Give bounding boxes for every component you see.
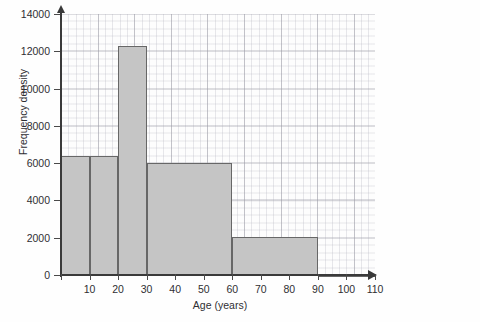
y-axis-tick [54, 126, 60, 127]
y-axis-arrow-icon [57, 5, 65, 13]
x-axis-tick [289, 274, 290, 280]
histogram-bar [118, 46, 147, 275]
y-axis-tick-label: 0 [0, 269, 50, 281]
cut-off-caption [0, 0, 480, 7]
y-axis-tick [54, 200, 60, 201]
y-axis-tick [54, 14, 60, 15]
y-axis-title: Frequency density [17, 42, 29, 182]
histogram-bar [90, 156, 119, 275]
histogram-bar [61, 156, 90, 275]
y-axis-tick-label: 14000 [0, 8, 50, 20]
x-axis-tick [346, 274, 347, 280]
y-axis-tick [54, 275, 60, 276]
x-axis-tick [204, 274, 205, 280]
y-axis-tick [54, 238, 60, 239]
x-axis-tick [90, 274, 91, 280]
x-axis-tick [147, 274, 148, 280]
x-axis-tick [318, 274, 319, 280]
x-axis-tick [61, 274, 62, 280]
x-axis-tick-label: 110 [355, 283, 395, 295]
y-axis-line [60, 10, 62, 277]
histogram-bar [232, 237, 318, 275]
y-axis-tick [54, 51, 60, 52]
histogram-bar [147, 163, 233, 275]
x-axis-title: Age (years) [120, 299, 320, 311]
x-axis-tick [175, 274, 176, 280]
y-axis-tick-label: 2000 [0, 232, 50, 244]
y-axis-tick [54, 163, 60, 164]
plot-area [61, 14, 375, 275]
x-axis-line [60, 274, 370, 276]
y-axis-tick-label: 4000 [0, 194, 50, 206]
x-axis-tick [232, 274, 233, 280]
x-axis-tick [118, 274, 119, 280]
x-axis-tick [375, 274, 376, 280]
y-axis-tick [54, 89, 60, 90]
histogram-figure: 02000400060008000100001200014000 1020304… [0, 0, 480, 322]
x-axis-tick [261, 274, 262, 280]
